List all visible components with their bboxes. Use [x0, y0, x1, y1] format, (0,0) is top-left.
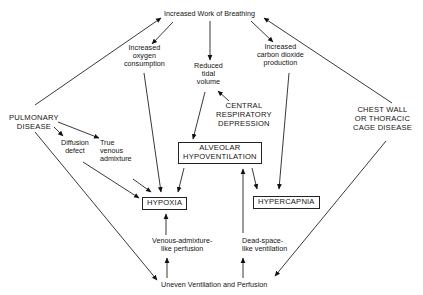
arrow-co2-to-hypercapnia	[279, 73, 289, 189]
arrow-central-to-tidal	[218, 91, 229, 101]
arrow-tidal-to-alveolar	[193, 92, 205, 139]
node-true-venous-admixture: True venous admixture	[100, 139, 132, 164]
arrow-diffusion-to-hypoxia	[83, 162, 139, 198]
arrow-pulmonary-to-true-venous	[58, 122, 99, 138]
node-label: like perfusion	[152, 245, 212, 253]
node-label: volume	[194, 78, 223, 86]
node-label: admixture	[100, 155, 132, 163]
node-chest-wall-disease: CHEST WALL OR THORACIC CAGE DISEASE	[353, 106, 412, 132]
node-label: DISEASE	[9, 123, 59, 132]
node-pulmonary-disease: PULMONARY DISEASE	[9, 114, 59, 132]
node-label: like ventilation	[242, 245, 287, 253]
node-label: HYPOXIA	[147, 198, 182, 207]
node-oxygen-consumption: Increased oxygen consumption	[124, 44, 165, 69]
node-venous-admixture-like-perfusion: Venous-admixture- like perfusion	[152, 237, 212, 253]
node-co2-production: Increased carbon dioxide production	[257, 43, 304, 68]
node-uneven-ventilation-perfusion: Uneven Ventilation and Perfusion	[161, 281, 267, 289]
node-label: Increased Work of Breathing	[164, 9, 255, 18]
node-label: CAGE DISEASE	[353, 124, 412, 133]
node-work-of-breathing: Increased Work of Breathing	[164, 10, 255, 18]
node-label: consumption	[124, 60, 165, 68]
arrow-pulmonary-to-uneven	[35, 132, 157, 280]
node-label: defect	[61, 147, 89, 155]
node-label: HYPOVENTILATION	[183, 153, 257, 162]
arrow-work-to-o2	[152, 22, 173, 44]
node-label: DEPRESSION	[216, 120, 272, 129]
arrow-alveolar-to-hypoxia	[178, 168, 184, 192]
arrow-work-to-co2	[251, 21, 273, 42]
node-central-respiratory-depression: CENTRAL RESPIRATORY DEPRESSION	[216, 102, 272, 128]
node-hypercapnia: HYPERCAPNIA	[253, 196, 320, 209]
arrow-o2-to-hypoxia	[144, 73, 161, 192]
node-label: HYPERCAPNIA	[258, 197, 315, 206]
arrow-alveolar-to-hypercapnia	[252, 168, 257, 189]
arrow-venous-to-hypoxia	[133, 179, 151, 192]
node-alveolar-hypoventilation: ALVEOLAR HYPOVENTILATION	[178, 142, 262, 164]
node-diffusion-defect: Diffusion defect	[61, 139, 89, 155]
node-label: production	[257, 59, 304, 67]
node-dead-space-like-ventilation: Dead-space- like ventilation	[242, 237, 287, 253]
node-label: Uneven Ventilation and Perfusion	[161, 280, 267, 289]
node-reduced-tidal-volume: Reduced tidal volume	[194, 62, 223, 87]
node-hypoxia: HYPOXIA	[142, 197, 187, 210]
